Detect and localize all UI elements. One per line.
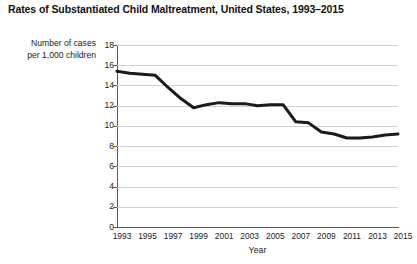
y-tick-mark-4: [113, 187, 117, 188]
y-tick-label-6: 6: [92, 161, 114, 171]
y-tick-mark-14: [113, 85, 117, 86]
y-tick-label-12: 12: [92, 100, 114, 110]
y-axis-label-line-2: per 1,000 children: [8, 50, 96, 62]
y-tick-mark-10: [113, 126, 117, 127]
y-tick-mark-18: [113, 45, 117, 46]
y-tick-mark-8: [113, 146, 117, 147]
x-tick-label-2015: 2015: [388, 231, 417, 241]
y-axis-label: Number of cases per 1,000 children: [8, 38, 96, 61]
plot-area: [117, 45, 398, 227]
y-axis-ticks: 024681012141618: [90, 0, 114, 264]
y-axis-label-line-1: Number of cases: [8, 38, 96, 50]
chart-title: Rates of Substantiated Child Maltreatmen…: [8, 3, 344, 15]
y-tick-label-2: 2: [92, 201, 114, 211]
y-tick-mark-16: [113, 65, 117, 66]
y-tick-mark-6: [113, 166, 117, 167]
y-tick-label-4: 4: [92, 181, 114, 191]
y-tick-mark-12: [113, 106, 117, 107]
y-tick-label-16: 16: [92, 60, 114, 70]
y-tick-label-18: 18: [92, 40, 114, 50]
series-line-substantiated-rate: [117, 71, 398, 138]
y-tick-mark-2: [113, 207, 117, 208]
x-axis-line: [117, 227, 399, 228]
x-axis-label: Year: [117, 245, 398, 255]
y-tick-label-14: 14: [92, 80, 114, 90]
y-tick-label-8: 8: [92, 141, 114, 151]
y-tick-label-10: 10: [92, 120, 114, 130]
y-tick-mark-0: [113, 227, 117, 228]
data-line-series: [117, 45, 398, 227]
y-tick-label-0: 0: [92, 222, 114, 232]
